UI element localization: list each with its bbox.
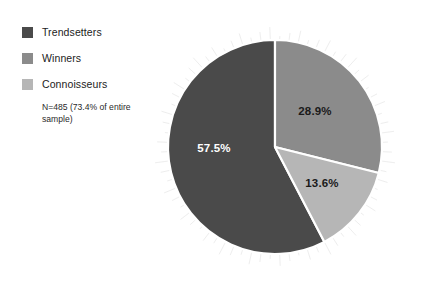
radial-ray — [181, 205, 184, 207]
pie-chart-figure: Trendsetters Winners Connoisseurs N=485 … — [0, 0, 421, 290]
radial-ray — [378, 179, 388, 182]
radial-ray — [333, 52, 336, 56]
radial-ray — [167, 179, 172, 181]
radial-ray — [172, 93, 179, 97]
radial-ray — [206, 57, 210, 62]
legend-label-trendsetters: Trendsetters — [42, 26, 102, 38]
radial-ray — [162, 111, 172, 114]
radial-ray — [366, 87, 369, 89]
radial-ray — [289, 33, 290, 40]
radial-ray — [307, 250, 310, 260]
radial-ray — [251, 38, 252, 42]
radial-ray — [298, 31, 300, 42]
radial-ray — [348, 227, 356, 236]
radial-ray — [161, 170, 170, 172]
radial-ray — [361, 213, 364, 215]
radial-ray — [371, 94, 377, 97]
radial-ray — [174, 83, 184, 89]
radial-ray — [231, 41, 234, 47]
radial-ray — [190, 220, 195, 225]
radial-ray — [325, 41, 331, 52]
radial-ray — [260, 254, 261, 262]
radial-ray — [375, 101, 385, 105]
sample-size-note: N=485 (73.4% of entire sample) — [42, 102, 146, 125]
radial-ray — [380, 170, 386, 171]
radial-ray — [249, 252, 252, 264]
slice-value-label: 57.5% — [197, 142, 231, 154]
radial-ray — [214, 238, 217, 243]
radial-ray — [224, 49, 225, 52]
radial-ray — [203, 233, 209, 241]
radial-ray — [260, 32, 261, 40]
pie-svg: 57.5%28.9%13.6% — [150, 20, 410, 280]
radial-ray — [155, 161, 168, 163]
legend-swatch-connoisseurs — [22, 79, 33, 90]
slice-value-label: 13.6% — [305, 177, 339, 189]
radial-ray — [378, 113, 382, 114]
radial-ray — [325, 243, 331, 255]
radial-ray — [289, 254, 290, 261]
legend-swatch-winners — [22, 53, 33, 64]
radial-ray — [241, 250, 243, 255]
legend-label-connoisseurs: Connoisseurs — [42, 78, 107, 90]
radial-ray — [230, 247, 233, 255]
radial-ray — [164, 188, 175, 193]
radial-ray — [348, 58, 357, 68]
radial-ray — [375, 188, 378, 189]
radial-ray — [270, 27, 271, 39]
radial-ray — [185, 78, 189, 81]
radial-ray — [333, 238, 338, 246]
radial-ray — [219, 243, 225, 255]
radial-ray — [239, 34, 242, 44]
radial-ray — [172, 104, 176, 106]
radial-ray — [193, 58, 202, 68]
radial-ray — [355, 220, 361, 225]
pie-container: 57.5%28.9%13.6% — [150, 20, 410, 280]
radial-ray — [371, 197, 377, 200]
radial-ray — [316, 40, 319, 47]
radial-ray — [172, 197, 179, 201]
legend-label-winners: Winners — [42, 52, 81, 64]
radial-ray — [382, 161, 395, 163]
radial-ray — [307, 40, 308, 44]
radial-ray — [189, 68, 196, 74]
radial-ray — [212, 47, 217, 55]
radial-ray — [361, 75, 369, 81]
radial-ray — [341, 233, 344, 237]
radial-ray — [341, 54, 346, 61]
radial-ray — [382, 131, 394, 133]
radial-ray — [163, 122, 170, 124]
radial-ray — [298, 252, 299, 255]
radial-ray — [200, 227, 202, 229]
radial-ray — [316, 247, 318, 253]
legend-swatch-trendsetters — [22, 27, 33, 38]
radial-ray — [355, 70, 359, 74]
slice-value-label: 28.9% — [298, 105, 332, 117]
radial-ray — [366, 205, 375, 211]
radial-ray — [181, 213, 190, 220]
radial-ray — [380, 122, 388, 124]
